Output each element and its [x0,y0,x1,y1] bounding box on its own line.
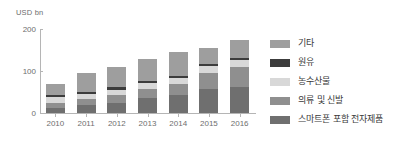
y-axis-tick-mark [40,113,43,114]
y-axis-tick-label: 200 [23,25,36,34]
bar-segment [199,73,218,90]
plot-area [40,29,255,113]
legend-item-label: 의류 및 신발 [298,96,343,105]
bar-segment [230,87,249,113]
legend-item-3[interactable]: 의류 및 신발 [270,91,407,110]
chart-legend: 기타원유농수산물의류 및 신발스마트폰 포함 전자제품 [270,34,407,129]
x-axis-tick-mark [86,114,87,117]
bar-segment [199,89,218,113]
bar-segment [107,67,126,88]
bar-2015[interactable] [199,48,218,114]
bar-segment [230,60,249,67]
legend-swatch-icon [270,97,290,105]
y-axis-tick-label: 0 [32,109,36,118]
legend-item-2[interactable]: 농수산물 [270,72,407,91]
legend-swatch-icon [270,40,290,48]
bar-segment [169,84,188,95]
legend-item-label: 농수산물 [298,77,330,86]
stacked-bar-chart-figure: USD bn 0100200 2010201120122013201420152… [0,0,407,150]
bar-2016[interactable] [230,40,249,113]
legend-item-0[interactable]: 기타 [270,34,407,53]
x-axis-tick-mark [117,114,118,117]
legend-item-label: 스마트폰 포함 전자제품 [298,115,383,124]
bar-segment [107,95,126,103]
x-axis-tick-label-2016: 2016 [231,119,249,128]
bar-segment [230,67,249,87]
bar-segment [169,95,188,113]
legend-item-label: 기타 [298,39,314,48]
x-axis-tick-label-2015: 2015 [200,119,218,128]
x-axis-tick-mark [148,114,149,117]
bar-2011[interactable] [77,73,96,113]
bar-2013[interactable] [138,59,157,113]
y-axis-tick-label: 100 [23,67,36,76]
x-axis-tick-mark [209,114,210,117]
x-axis-tick-label-2013: 2013 [139,119,157,128]
bar-2014[interactable] [169,52,188,113]
bar-2010[interactable] [46,84,65,113]
bar-segment [77,105,96,113]
bar-segment [169,52,188,76]
bar-segment [138,59,157,80]
x-axis-tick-label-2014: 2014 [169,119,187,128]
bar-segment [138,89,157,98]
bar-segment [138,98,157,113]
legend-swatch-icon [270,59,290,67]
legend-swatch-icon [270,116,290,124]
bar-segment [199,48,218,65]
bar-2012[interactable] [107,67,126,113]
bar-segment [230,40,249,58]
bar-segment [107,103,126,114]
y-axis-title: USD bn [16,8,43,17]
x-axis-tick-label-2011: 2011 [77,119,94,128]
x-axis-tick-label-2010: 2010 [46,119,64,128]
legend-item-1[interactable]: 원유 [270,53,407,72]
x-axis-tick-mark [240,114,241,117]
bar-segment [46,84,65,96]
legend-item-label: 원유 [298,58,314,67]
bar-segment [46,108,65,113]
x-axis-tick-label-2012: 2012 [108,119,126,128]
x-axis-tick-mark [178,114,179,117]
bar-segment [77,73,96,91]
x-axis-tick-mark [55,114,56,117]
legend-swatch-icon [270,78,290,86]
legend-item-4[interactable]: 스마트폰 포함 전자제품 [270,110,407,129]
